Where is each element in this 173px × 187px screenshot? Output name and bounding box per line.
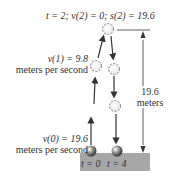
v1-value: v(1) = 9.8 xyxy=(2,53,88,64)
v0-label: v(0) = 19.6 meters per second xyxy=(2,133,88,155)
t0-label: t = 0 xyxy=(81,158,101,169)
v0-value: v(0) = 19.6 xyxy=(2,133,88,144)
v1-label: v(1) = 9.8 meters per second xyxy=(2,53,88,75)
down-arrow-1 xyxy=(111,36,113,57)
arrowhead-down-icon xyxy=(141,146,146,153)
ball-end xyxy=(112,146,123,157)
height-unit: meters xyxy=(128,97,172,108)
height-label: 19.6 meters xyxy=(128,86,172,108)
up-arrow-2 xyxy=(94,80,95,104)
ball-apex xyxy=(103,24,114,35)
v0-unit: meters per second xyxy=(2,144,88,155)
v1-unit: meters per second xyxy=(2,64,88,75)
ball-falling-1 xyxy=(109,64,120,75)
ball-falling-2 xyxy=(110,101,121,112)
ball-rising xyxy=(91,61,102,72)
up-arrow-3 xyxy=(98,38,103,58)
apex-label: t = 2; v(2) = 0; s(2) = 19.6 xyxy=(46,10,155,21)
height-value: 19.6 xyxy=(128,86,172,97)
arrowhead-up-icon xyxy=(141,31,146,38)
t4-label: t = 4 xyxy=(107,158,127,169)
